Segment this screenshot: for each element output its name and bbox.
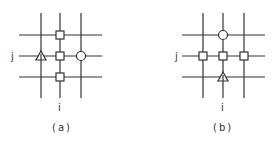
square-node	[56, 31, 64, 39]
col-label-i: i	[58, 102, 61, 113]
circle-node	[77, 52, 86, 61]
row-label-j: j	[174, 51, 178, 62]
square-node	[56, 73, 64, 81]
square-node	[56, 52, 64, 60]
diagram-a	[19, 13, 102, 98]
square-node	[219, 52, 227, 60]
col-label-i: i	[221, 102, 224, 113]
stencil-diagrams: j i (a) j i (b)	[0, 0, 278, 144]
diagram-b	[182, 13, 265, 98]
square-node	[199, 52, 207, 60]
caption-a: (a)	[52, 122, 72, 133]
caption-b: (b)	[213, 122, 233, 133]
square-node	[240, 52, 248, 60]
row-label-j: j	[10, 51, 14, 62]
circle-node	[219, 31, 228, 40]
